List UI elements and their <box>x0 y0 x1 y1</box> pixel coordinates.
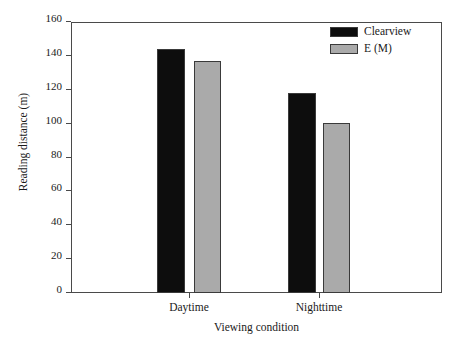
y-axis: 160 140 120 100 80 60 40 20 <box>0 0 71 344</box>
y-tick-label: 80 <box>51 149 62 160</box>
bar-em-daytime <box>194 61 221 293</box>
bar-clearview-daytime <box>157 49 185 293</box>
plot-area <box>71 22 442 293</box>
y-tick-label: 40 <box>51 216 62 227</box>
x-tick-mark-nighttime <box>319 293 320 298</box>
bar-clearview-nighttime <box>288 93 316 293</box>
bar-chart-figure: 160 140 120 100 80 60 40 20 <box>0 0 464 344</box>
y-tick-label: 60 <box>51 182 62 193</box>
y-tick-mark <box>66 190 71 191</box>
legend-entry-em: E (M) <box>330 41 434 56</box>
legend: Clearview E (M) <box>330 24 434 58</box>
y-tick-label: 100 <box>46 115 63 126</box>
x-tick-label-nighttime: Nighttime <box>259 301 379 313</box>
y-tick-mark <box>66 292 71 293</box>
bar-em-nighttime <box>323 123 350 293</box>
x-tick-mark-daytime <box>189 293 190 298</box>
legend-swatch-clearview <box>330 27 358 37</box>
y-tick-mark <box>66 89 71 90</box>
y-tick-mark <box>66 157 71 158</box>
y-tick-mark <box>66 224 71 225</box>
y-tick-mark <box>66 258 71 259</box>
legend-entry-clearview: Clearview <box>330 24 434 39</box>
legend-label-clearview: Clearview <box>364 26 411 38</box>
y-tick-label: 20 <box>51 250 62 261</box>
y-tick-label: 140 <box>46 47 63 58</box>
x-axis-title: Viewing condition <box>71 321 442 333</box>
y-tick-label: 0 <box>57 284 63 295</box>
legend-swatch-em <box>330 44 358 54</box>
y-tick-label: 160 <box>46 13 63 24</box>
y-tick-label: 120 <box>46 81 63 92</box>
x-tick-label-daytime: Daytime <box>129 301 249 313</box>
legend-label-em: E (M) <box>364 43 392 55</box>
y-axis-title: Reading distance (m) <box>17 42 29 242</box>
y-tick-mark <box>66 55 71 56</box>
y-tick-mark <box>66 21 71 22</box>
y-tick-mark <box>66 123 71 124</box>
